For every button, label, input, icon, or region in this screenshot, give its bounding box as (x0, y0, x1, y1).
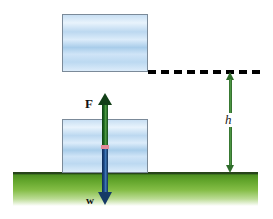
force-arrow-shaft (102, 103, 108, 147)
force-arrow-head-icon (98, 93, 112, 105)
height-label: h (223, 113, 234, 127)
block-raised (62, 14, 148, 72)
weight-arrow-shaft (102, 149, 108, 193)
weight-label: w (86, 194, 94, 206)
height-reference-dashed-line (148, 70, 264, 74)
grass-ground (13, 172, 258, 206)
physics-diagram-canvas: F w h (0, 0, 273, 219)
height-arrow-head-bottom-icon (226, 165, 234, 173)
force-label: F (85, 96, 93, 112)
weight-arrow-head-icon (98, 192, 112, 205)
